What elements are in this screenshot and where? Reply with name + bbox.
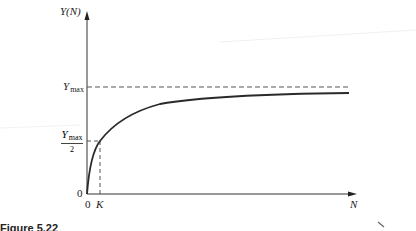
x-axis-arrow-icon (348, 192, 357, 197)
saturation-curve (87, 93, 349, 194)
x-axis-label: N (350, 199, 357, 210)
y-axis-arrow-icon (85, 11, 90, 20)
scan-artifact (220, 30, 416, 42)
ymax-label-sub: max (70, 85, 84, 94)
figure-canvas (0, 0, 416, 231)
ymax-label: Ymax (63, 81, 84, 94)
yhalf-label-numerator: Ymax (61, 128, 83, 144)
yhalf-label: Ymax 2 (61, 128, 83, 154)
ymax-label-main: Y (63, 80, 69, 92)
y-origin-tick: 0 (77, 188, 83, 199)
scan-mark (378, 222, 384, 227)
x-origin-tick: 0 (85, 199, 91, 210)
k-tick: K (96, 199, 103, 210)
y-axis-label: Y(N) (60, 6, 81, 17)
yhalf-num-sub: max (69, 133, 83, 142)
figure-caption: Figure 5.22 (0, 222, 58, 231)
yhalf-num-main: Y (62, 128, 68, 140)
yhalf-label-denominator: 2 (61, 144, 83, 154)
